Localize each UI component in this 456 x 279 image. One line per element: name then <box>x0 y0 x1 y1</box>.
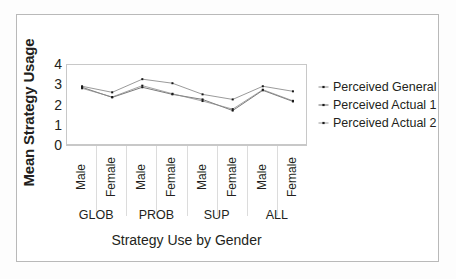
legend-label: Perceived General <box>333 81 437 94</box>
x-axis-title: Strategy Use by Gender <box>66 232 307 248</box>
legend-item-perceived-general[interactable]: Perceived General <box>318 78 448 96</box>
legend-item-perceived-actual-2[interactable]: Perceived Actual 2 <box>318 114 448 132</box>
data-point-marker <box>232 108 234 110</box>
x-axis-tick-label-female-3: Female <box>164 157 178 197</box>
chart-figure: Mean Strategy Usage 43210 MaleFemaleMale… <box>0 0 456 279</box>
group-label-all: ALL <box>247 208 307 222</box>
series-lines <box>67 65 308 146</box>
legend-item-perceived-actual-1[interactable]: Perceived Actual 1 <box>318 96 448 114</box>
x-axis-tick-slot: Female <box>277 146 307 208</box>
data-point-marker <box>81 87 83 89</box>
legend-marker-icon <box>318 82 329 92</box>
data-point-marker <box>202 100 204 102</box>
x-axis-tick-slot: Female <box>217 146 247 208</box>
legend-marker-icon <box>318 118 329 128</box>
x-axis-tick-label-male-2: Male <box>134 164 148 190</box>
group-label-sup: SUP <box>187 208 247 222</box>
x-axis-tick-label-male-4: Male <box>195 164 209 190</box>
data-point-marker <box>111 96 113 98</box>
data-point-marker <box>262 85 264 87</box>
y-axis-tick-4: 4 <box>54 57 62 71</box>
y-axis-tick-labels: 43210 <box>44 54 62 150</box>
data-point-marker <box>171 93 173 95</box>
data-point-marker <box>292 100 294 102</box>
x-axis-tick-slot: Male <box>66 146 96 208</box>
data-point-marker <box>292 90 294 92</box>
x-axis-tick-slot: Male <box>247 146 277 208</box>
x-axis-tick-slot: Male <box>187 146 217 208</box>
legend-label: Perceived Actual 1 <box>333 99 437 112</box>
x-axis-tick-slot: Female <box>96 146 126 208</box>
data-point-marker <box>171 82 173 84</box>
x-axis-tick-label-female-7: Female <box>285 157 299 197</box>
y-axis-tick-0: 0 <box>54 138 62 152</box>
x-axis-tick-labels: MaleFemaleMaleFemaleMaleFemaleMaleFemale <box>66 146 307 208</box>
data-point-marker <box>262 89 264 91</box>
data-point-marker <box>111 91 113 93</box>
x-axis-tick-label-female-1: Female <box>104 157 118 197</box>
y-axis-tick-1: 1 <box>54 118 62 132</box>
y-axis-title: Mean Strategy Usage <box>20 23 37 203</box>
x-axis-tick-label-male-0: Male <box>74 164 88 190</box>
data-point-marker <box>141 78 143 80</box>
x-axis-tick-slot: Female <box>156 146 186 208</box>
group-label-glob: GLOB <box>66 208 126 222</box>
x-axis-group-labels: GLOBPROBSUPALL <box>66 208 307 226</box>
y-axis-tick-3: 3 <box>54 77 62 91</box>
chart-legend: Perceived GeneralPerceived Actual 1Perce… <box>318 78 448 132</box>
plot-area <box>66 64 307 145</box>
data-point-marker <box>232 98 234 100</box>
x-axis-tick-slot: Male <box>126 146 156 208</box>
y-axis-tick-2: 2 <box>54 98 62 112</box>
data-point-marker <box>141 85 143 87</box>
data-point-marker <box>202 93 204 95</box>
x-axis-tick-label-female-5: Female <box>225 157 239 197</box>
x-axis-tick-label-male-6: Male <box>255 164 269 190</box>
group-label-prob: PROB <box>126 208 186 222</box>
legend-label: Perceived Actual 2 <box>333 117 437 130</box>
legend-marker-icon <box>318 100 329 110</box>
